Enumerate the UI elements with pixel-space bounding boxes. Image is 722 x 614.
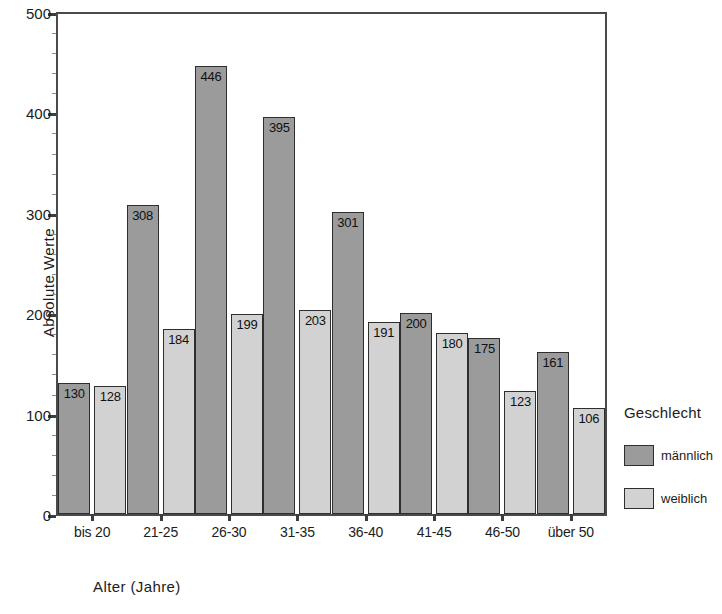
- bar-male[interactable]: 301: [332, 212, 364, 514]
- y-tick-label: 200: [26, 306, 51, 323]
- y-minor-tick: [52, 274, 56, 275]
- legend-swatch: [624, 488, 654, 509]
- bar-value-label: 308: [132, 209, 153, 223]
- bar-female[interactable]: 128: [94, 386, 126, 515]
- y-minor-tick: [52, 53, 56, 54]
- legend-entry[interactable]: männlich: [624, 445, 720, 466]
- legend-label: weiblich: [661, 491, 707, 506]
- y-minor-tick: [52, 334, 56, 335]
- x-tick-mark: [501, 514, 504, 521]
- bar-male[interactable]: 446: [195, 66, 227, 514]
- y-minor-tick: [52, 93, 56, 94]
- plot-frame-right: [605, 12, 607, 516]
- y-minor-tick: [52, 455, 56, 456]
- bar-female[interactable]: 184: [163, 329, 195, 514]
- bar-group: 308184: [127, 12, 195, 514]
- plot-area: 0100200300400500 13012830818444619939520…: [56, 12, 607, 516]
- bar-value-label: 180: [442, 337, 463, 351]
- x-tick-mark: [228, 514, 231, 521]
- bar-male[interactable]: 200: [400, 313, 432, 514]
- bar-value-label: 106: [578, 412, 599, 426]
- y-minor-tick: [52, 73, 56, 74]
- y-minor-tick: [52, 194, 56, 195]
- y-minor-tick: [52, 395, 56, 396]
- y-minor-tick: [52, 234, 56, 235]
- legend-swatch: [624, 445, 654, 466]
- y-minor-tick: [52, 133, 56, 134]
- y-minor-tick: [52, 435, 56, 436]
- x-tick-label: 31-35: [280, 524, 315, 540]
- x-tick-label: 21-25: [143, 524, 178, 540]
- bar-group: 301191: [332, 12, 400, 514]
- bar-value-label: 128: [100, 390, 121, 404]
- bar-male[interactable]: 175: [468, 338, 500, 514]
- x-tick-mark: [433, 514, 436, 521]
- x-tick-mark: [570, 514, 573, 521]
- y-tick-label: 500: [26, 5, 51, 22]
- y-minor-tick: [52, 495, 56, 496]
- bar-value-label: 130: [64, 387, 85, 401]
- x-tick-mark: [365, 514, 368, 521]
- legend: Geschlecht männlichweiblich: [624, 404, 720, 531]
- y-minor-tick: [52, 174, 56, 175]
- bar-female[interactable]: 203: [299, 310, 331, 514]
- bar-value-label: 184: [168, 333, 189, 347]
- x-tick-mark: [160, 514, 163, 521]
- bar-group: 130128: [58, 12, 126, 514]
- y-minor-tick: [52, 254, 56, 255]
- bar-chart: Absolute Werte 0100200300400500 13012830…: [0, 0, 722, 614]
- bar-group: 161106: [537, 12, 605, 514]
- y-tick-label: 400: [26, 105, 51, 122]
- legend-title: Geschlecht: [624, 404, 720, 421]
- bar-male[interactable]: 161: [537, 352, 569, 514]
- legend-entries: männlichweiblich: [624, 445, 720, 509]
- x-tick-mark: [296, 514, 299, 521]
- bar-value-label: 446: [201, 70, 222, 84]
- bar-value-label: 191: [373, 326, 394, 340]
- y-tick-label: 100: [26, 406, 51, 423]
- bar-group: 446199: [195, 12, 263, 514]
- x-tick-label: 26-30: [212, 524, 247, 540]
- y-minor-tick: [52, 475, 56, 476]
- legend-label: männlich: [661, 448, 713, 463]
- bar-value-label: 199: [237, 318, 258, 332]
- y-minor-tick: [52, 374, 56, 375]
- bar-female[interactable]: 199: [231, 314, 263, 514]
- bar-group: 395203: [263, 12, 331, 514]
- y-tick-label: 0: [43, 507, 51, 524]
- x-tick-label: bis 20: [74, 524, 110, 540]
- bar-value-label: 301: [337, 216, 358, 230]
- x-axis-tick-labels: bis 2021-2526-3031-3536-4041-4546-50über…: [56, 524, 607, 546]
- bar-value-label: 123: [510, 395, 531, 409]
- x-tick-label: über 50: [548, 524, 594, 540]
- bar-value-label: 395: [269, 121, 290, 135]
- y-minor-tick: [52, 354, 56, 355]
- y-minor-tick: [52, 33, 56, 34]
- bars-layer: 1301283081844461993952033011912001801751…: [58, 12, 605, 514]
- bar-value-label: 161: [542, 356, 563, 370]
- y-minor-tick: [52, 154, 56, 155]
- bar-male[interactable]: 395: [263, 117, 295, 514]
- x-tick-label: 36-40: [348, 524, 383, 540]
- x-tick-mark: [91, 514, 94, 521]
- bar-group: 175123: [468, 12, 536, 514]
- bar-group: 200180: [400, 12, 468, 514]
- x-axis-line: [56, 514, 607, 516]
- bar-value-label: 175: [474, 342, 495, 356]
- legend-entry[interactable]: weiblich: [624, 488, 720, 509]
- y-tick-label: 300: [26, 205, 51, 222]
- bar-value-label: 200: [406, 317, 427, 331]
- bar-female[interactable]: 106: [573, 408, 605, 514]
- bar-female[interactable]: 123: [504, 391, 536, 514]
- bar-value-label: 203: [305, 314, 326, 328]
- x-axis-title: Alter (Jahre): [93, 578, 181, 595]
- x-tick-label: 46-50: [485, 524, 520, 540]
- bar-male[interactable]: 130: [58, 383, 90, 514]
- bar-female[interactable]: 191: [368, 322, 400, 514]
- y-minor-tick: [52, 294, 56, 295]
- bar-female[interactable]: 180: [436, 333, 468, 514]
- bar-male[interactable]: 308: [127, 205, 159, 514]
- x-tick-label: 41-45: [417, 524, 452, 540]
